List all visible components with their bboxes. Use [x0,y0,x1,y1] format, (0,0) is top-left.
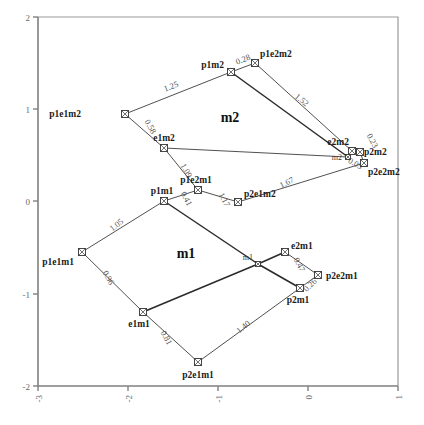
node-label: p1e1m2 [49,109,81,119]
edge-m1node-e2m1 [258,252,285,264]
node-p1e2m2[interactable]: p1e2m2 [252,49,292,67]
edge-weight-label: 1.52 [293,91,311,108]
edge-weight-label: 1.40 [234,318,252,335]
node-label: p2m2 [364,147,387,157]
x-tick: 1 [394,386,404,400]
network-plot: 210-1-2-3-2-1011.250.280.581.091.520.230… [0,0,424,425]
y-tick: -1 [23,290,39,300]
node-label: p2e1m1 [182,370,214,380]
x-tick: -2 [124,386,134,403]
x-tick-label: 1 [394,395,404,400]
edge-e1m2-m2node [164,148,348,157]
node-label: p1e2m1 [180,175,212,185]
node-e1m1[interactable]: e1m1 [128,309,150,330]
edge-e1m1-m1node [143,264,258,312]
x-tick-label: -3 [34,395,44,403]
node-label: p1m2 [201,60,224,70]
y-tick-label: -2 [23,382,31,392]
node-p2m2[interactable]: p2m2 [357,147,387,157]
node-label: p1e2m2 [260,49,292,59]
y-tick: -2 [23,382,39,392]
node-label: e1m1 [128,319,150,329]
edge-weight-label: 0.28 [234,52,251,67]
edge-weight-label: 0.81 [159,329,175,347]
y-tick: 2 [26,13,39,23]
node-p1e1m1[interactable]: p1e1m1 [42,249,85,268]
node-label: m2 [332,153,342,162]
x-tick: -3 [34,386,44,403]
y-tick-label: 2 [26,13,31,23]
node-p1m1[interactable]: p1m1 [151,186,174,205]
x-tick-label: 0 [304,395,314,400]
figure-canvas: 210-1-2-3-2-1011.250.280.581.091.520.230… [0,0,424,425]
node-label: p1m1 [151,186,174,196]
node-e2m1[interactable]: e2m1 [282,241,313,256]
node-label: p2e2m2 [368,167,400,177]
y-tick-label: -1 [23,290,31,300]
plot-axes [38,17,398,386]
node-p1m2[interactable]: p1m2 [201,60,234,76]
edge-weight-label: 1.05 [107,216,125,233]
node-label: p2m1 [287,295,310,305]
node-label: e1m2 [153,133,175,143]
x-tick-label: -1 [214,395,224,403]
node-p2e1m2[interactable]: p2e1m2 [235,189,276,206]
x-tick: 0 [304,386,314,400]
node-label: e2m2 [327,137,349,147]
cluster-label-m1: m1 [177,246,196,261]
y-tick-label: 1 [26,105,31,115]
y-tick-label: 0 [26,197,31,207]
edge-p1e1m2-p1m2 [125,72,231,114]
node-p2e2m2[interactable]: p2e2m2 [361,160,400,178]
edge-weight-label: 1.17 [217,191,233,209]
y-tick: 0 [26,197,39,207]
edge-layer [82,63,364,362]
plot-frame [38,17,398,386]
cluster-label-m2: m2 [221,110,240,125]
node-label: p2e1m2 [244,189,276,199]
node-label: e2m1 [291,241,313,251]
node-label: p1e1m1 [42,257,74,267]
edge-weight-label: 0.47 [292,256,308,274]
edge-m1node-p2m1 [258,264,300,288]
y-tick: 1 [26,105,39,115]
node-p2e1m1[interactable]: p2e1m1 [182,359,214,381]
x-tick: -1 [214,386,224,403]
node-label: p2e2m1 [326,271,358,281]
edge-weight-label: 1.67 [278,175,296,191]
x-tick-label: -2 [124,395,134,403]
edge-weight-label: 1.25 [162,79,179,94]
node-p1e1m2[interactable]: p1e1m2 [49,109,128,119]
node-label: m1 [243,253,253,262]
node-m1node[interactable]: m1 [243,253,261,267]
node-p2e2m1[interactable]: p2e2m1 [315,271,358,281]
node-layer: p1e1m2p1m2p1e2m2e1m2e2m2p2m2p2e2m2m2p2e1… [42,49,400,380]
edge-p1e1m1-p1m1 [82,201,164,252]
